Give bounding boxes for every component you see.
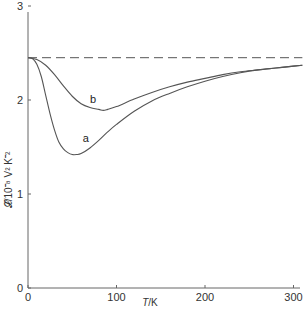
series-line-a [28,58,302,155]
axes [28,12,300,288]
y-tick-label: 3 [17,0,23,12]
x-axis-title: T/K [142,297,158,308]
x-tick-label: 200 [196,291,214,303]
series-group [28,58,302,155]
y-tick-label: 0 [17,282,23,294]
curve-b-label: b [90,93,96,105]
lorenz-number-chart: 0100200300 0123 a b T/K 𝓛/10⁻⁸ V² K⁻² [0,0,304,316]
series-line-b [28,58,302,111]
y-tick-label: 2 [17,94,23,106]
x-tick-label: 300 [284,291,302,303]
x-axis-title-unit: /K [148,297,158,308]
y-axis-title: 𝓛/10⁻⁸ V² K⁻² [3,151,14,208]
y-tick-label: 1 [17,188,23,200]
x-tick-label: 0 [25,291,31,303]
y-ticks: 0123 [17,0,31,294]
curve-a-label: a [83,132,90,144]
x-tick-label: 100 [107,291,125,303]
